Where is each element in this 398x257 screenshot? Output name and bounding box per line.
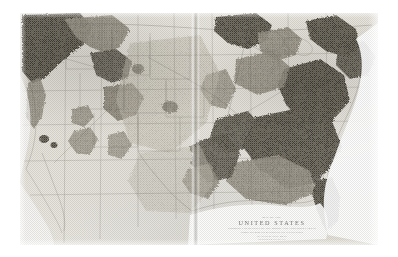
cartouche-credit: JULIUS BIEN & CO. LITH. N.Y. [216,238,328,240]
cartouche-subtitle: SHOWING THE DENSITY OF THE WOODLAND AND … [216,228,328,231]
map-plate: MAP OF THE UNITED STATES SHOWING THE DEN… [20,13,378,245]
scan-grain-texture [20,13,378,245]
cartouche-line-2: COMPILED FROM THE RETURNS OF THE TENTH C… [216,231,328,233]
screenshot-canvas: MAP OF THE UNITED STATES SHOWING THE DEN… [0,0,398,257]
cartouche-line-3: SCALE OF STATUTE MILES [216,235,328,237]
map-title-cartouche: MAP OF THE UNITED STATES SHOWING THE DEN… [216,217,328,240]
cartouche-title: UNITED STATES [216,220,328,227]
